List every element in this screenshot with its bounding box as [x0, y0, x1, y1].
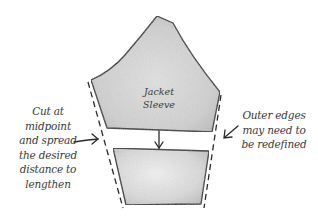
- sleeve-cap-piece: [91, 16, 220, 132]
- left-note-line-1: Cut at: [4, 104, 92, 119]
- piece-label-line-2: Sleeve: [129, 98, 189, 111]
- sleeve-lower-piece: [113, 148, 209, 205]
- right-note-line-2: may need to: [232, 123, 316, 138]
- piece-label-line-1: Jacket: [129, 85, 189, 98]
- left-note-line-3: and spread: [4, 133, 92, 148]
- outer-edges-note: Outer edges may need to be redefined: [232, 108, 316, 152]
- spread-arrow-icon: [155, 131, 163, 148]
- right-note-line-3: be redefined: [232, 137, 316, 152]
- cut-midpoint-note: Cut at midpoint and spread the desired d…: [4, 104, 92, 191]
- sleeve-lengthening-diagram: Jacket Sleeve Cut at midpoint and spread…: [0, 0, 318, 217]
- left-note-line-2: midpoint: [4, 119, 92, 134]
- right-note-line-1: Outer edges: [232, 108, 316, 123]
- left-note-line-6: lengthen: [4, 177, 92, 192]
- piece-label: Jacket Sleeve: [129, 85, 189, 111]
- left-note-line-4: the desired: [4, 148, 92, 163]
- left-note-line-5: distance to: [4, 162, 92, 177]
